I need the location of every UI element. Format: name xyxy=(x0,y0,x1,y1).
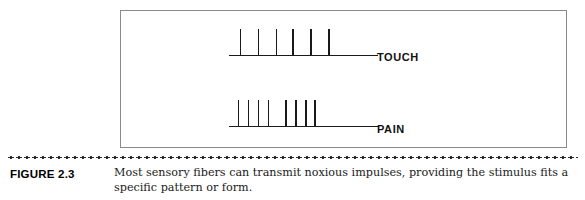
figure-number-label: FIGURE 2.3 xyxy=(10,168,75,180)
dotted-separator xyxy=(7,156,578,159)
figure-caption-text: Most sensory fibers can transmit noxious… xyxy=(114,166,576,195)
pain-trace-label: PAIN xyxy=(377,124,405,135)
touch-spike-train xyxy=(229,29,378,56)
caption-block: FIGURE 2.3 Most sensory fibers can trans… xyxy=(0,164,585,200)
figure-panel: TOUCH PAIN xyxy=(120,10,567,148)
pain-spike-train xyxy=(229,100,378,127)
touch-trace-label: TOUCH xyxy=(377,52,419,63)
touch-trace xyxy=(121,11,566,147)
